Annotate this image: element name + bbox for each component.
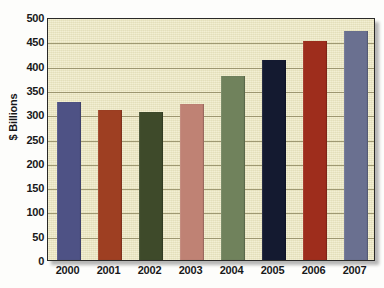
y-tick-label: 500 (14, 12, 44, 24)
bar-2006 (303, 41, 327, 260)
y-tick-label: 400 (14, 61, 44, 73)
x-tick-label: 2007 (332, 264, 378, 276)
y-tick-label: 300 (14, 109, 44, 121)
bar-2003 (180, 104, 204, 260)
x-tick-label: 2003 (168, 264, 214, 276)
y-tick-label: 100 (14, 206, 44, 218)
x-tick-label: 2001 (86, 264, 132, 276)
bar-2007 (344, 31, 368, 260)
x-tick-label: 2006 (291, 264, 337, 276)
y-tick-label: 350 (14, 85, 44, 97)
x-tick-label: 2005 (250, 264, 296, 276)
y-tick-label: 150 (14, 182, 44, 194)
bar-2002 (139, 112, 163, 260)
x-tick-label: 2002 (127, 264, 173, 276)
bars-layer (48, 19, 374, 260)
y-tick-label: 450 (14, 36, 44, 48)
y-tick-label: 50 (14, 231, 44, 243)
y-tick-label: 0 (14, 255, 44, 267)
bar-2004 (221, 76, 245, 260)
y-tick-label: 200 (14, 158, 44, 170)
y-tick-label: 250 (14, 134, 44, 146)
x-tick-label: 2000 (45, 264, 91, 276)
bar-2001 (98, 110, 122, 260)
x-tick-label: 2004 (209, 264, 255, 276)
plot-area (47, 18, 375, 261)
bar-2005 (262, 60, 286, 260)
bar-2000 (57, 102, 81, 260)
y-axis-tick-labels: 500450400350300250200150100500 (14, 0, 44, 288)
x-axis-tick-labels: 20002001200220032004200520062007 (47, 264, 375, 286)
bar-chart-figure: $ Billions 50045040035030025020015010050… (0, 0, 384, 288)
